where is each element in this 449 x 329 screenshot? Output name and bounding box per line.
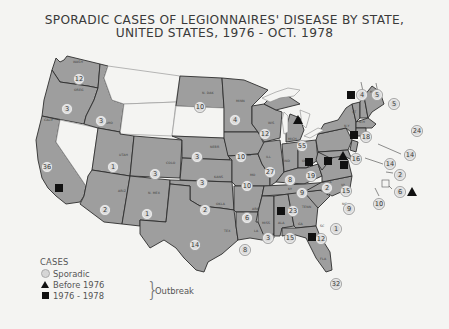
marker-ind[interactable]: 8 bbox=[284, 174, 295, 185]
outbreak-1976-1978-tenn[interactable] bbox=[277, 207, 285, 215]
label-tenn: TENN bbox=[301, 205, 312, 209]
label-ala: ALA bbox=[278, 221, 285, 225]
marker-fla[interactable]: 32 bbox=[330, 278, 341, 289]
marker-ga[interactable]: 12 bbox=[315, 233, 326, 244]
marker-wash[interactable]: 12 bbox=[73, 73, 84, 84]
marker-okla[interactable]: 2 bbox=[199, 204, 210, 215]
marker-tex[interactable]: 14 bbox=[189, 239, 200, 250]
marker-nmex[interactable]: 1 bbox=[141, 208, 152, 219]
svg-text:23: 23 bbox=[289, 207, 297, 215]
svg-text:3: 3 bbox=[200, 179, 204, 187]
triangle-icon bbox=[40, 280, 50, 290]
outbreak-before-1976-dc[interactable] bbox=[407, 187, 417, 196]
label-sc: SC bbox=[320, 224, 325, 228]
svg-text:2: 2 bbox=[103, 206, 107, 214]
outbreak-1976-1978-ind[interactable] bbox=[305, 158, 313, 166]
svg-text:14: 14 bbox=[406, 151, 414, 159]
legend-header: CASES bbox=[40, 257, 104, 267]
marker-idaho[interactable]: 3 bbox=[95, 115, 106, 126]
marker-ala[interactable]: 15 bbox=[284, 232, 295, 243]
outbreak-1976-1978-ohio[interactable] bbox=[324, 157, 332, 165]
svg-text:55: 55 bbox=[298, 142, 306, 150]
marker-wis[interactable]: 12 bbox=[259, 128, 270, 139]
state-mont bbox=[104, 66, 180, 104]
marker-ndak[interactable]: 10 bbox=[194, 101, 205, 112]
marker-mass[interactable]: 24 bbox=[411, 125, 422, 136]
leader-dc bbox=[389, 186, 392, 189]
svg-text:4: 4 bbox=[233, 116, 237, 124]
label-wash: WASH bbox=[73, 60, 83, 64]
outbreak-1976-1978-ny[interactable] bbox=[350, 131, 358, 139]
square-icon bbox=[40, 291, 50, 301]
state-nj[interactable] bbox=[350, 140, 358, 152]
marker-me[interactable]: 5 bbox=[388, 98, 399, 109]
label-ndak: N. DAK bbox=[202, 91, 214, 95]
svg-text:10: 10 bbox=[243, 182, 251, 190]
svg-text:12: 12 bbox=[317, 235, 325, 243]
marker-kans[interactable]: 3 bbox=[196, 177, 207, 188]
svg-text:8: 8 bbox=[243, 246, 247, 254]
outbreak-1976-1978-ga[interactable] bbox=[308, 233, 316, 241]
marker-ill[interactable]: 27 bbox=[264, 166, 275, 177]
label-okla: OKLA bbox=[216, 202, 226, 206]
marker-md[interactable]: 10 bbox=[373, 198, 384, 209]
marker-ky[interactable]: 9 bbox=[296, 187, 307, 198]
marker-utah[interactable]: 1 bbox=[107, 161, 118, 172]
marker-ny[interactable]: 18 bbox=[360, 131, 371, 142]
marker-sc[interactable]: 1 bbox=[330, 223, 341, 234]
lake-michigan bbox=[282, 112, 288, 134]
leader-md bbox=[375, 188, 379, 196]
marker-oreg[interactable]: 3 bbox=[61, 103, 72, 114]
legend-before-1976-label: Before 1976 bbox=[53, 280, 104, 290]
marker-la[interactable]: 8 bbox=[239, 244, 250, 255]
marker-nebr[interactable]: 3 bbox=[191, 151, 202, 162]
outbreak-1976-1978-calif[interactable] bbox=[55, 184, 63, 192]
marker-wva[interactable]: 2 bbox=[321, 182, 332, 193]
svg-text:9: 9 bbox=[300, 189, 304, 197]
svg-text:24: 24 bbox=[413, 127, 421, 135]
marker-dc[interactable]: 6 bbox=[394, 186, 405, 197]
marker-conn[interactable]: 14 bbox=[404, 149, 415, 160]
marker-ark[interactable]: 6 bbox=[241, 212, 252, 223]
svg-text:15: 15 bbox=[286, 234, 294, 242]
marker-nc[interactable]: 9 bbox=[343, 203, 354, 214]
label-ariz: ARIZ bbox=[118, 189, 127, 193]
svg-text:10: 10 bbox=[237, 153, 245, 161]
marker-colo[interactable]: 3 bbox=[149, 168, 160, 179]
marker-nj[interactable]: 14 bbox=[384, 158, 395, 169]
label-nmex: N. MEX bbox=[148, 191, 161, 195]
marker-del[interactable]: 2 bbox=[394, 169, 405, 180]
label-nh: N.H bbox=[359, 120, 366, 124]
svg-text:14: 14 bbox=[191, 241, 199, 249]
svg-text:32: 32 bbox=[332, 280, 340, 288]
marker-vt[interactable]: 4 bbox=[356, 89, 367, 100]
label-ind: IND bbox=[284, 159, 291, 163]
state-ind[interactable] bbox=[282, 142, 298, 172]
marker-mo[interactable]: 10 bbox=[241, 180, 252, 191]
outbreak-1976-1978-pa[interactable] bbox=[340, 161, 348, 169]
marker-pa[interactable]: 16 bbox=[350, 153, 361, 164]
marker-mich[interactable]: 55 bbox=[296, 140, 307, 151]
label-ill: ILL bbox=[266, 155, 271, 159]
marker-calif[interactable]: 36 bbox=[41, 161, 52, 172]
marker-iowa[interactable]: 10 bbox=[235, 151, 246, 162]
legend-outbreak-label: Outbreak bbox=[155, 286, 194, 296]
leader-conn bbox=[378, 144, 401, 154]
marker-ariz[interactable]: 2 bbox=[99, 204, 110, 215]
marker-minn[interactable]: 4 bbox=[229, 114, 240, 125]
label-miss: MISS bbox=[262, 221, 270, 225]
svg-text:10: 10 bbox=[375, 200, 383, 208]
outbreak-1976-1978-vt[interactable] bbox=[347, 91, 355, 99]
marker-tenn[interactable]: 23 bbox=[287, 205, 298, 216]
svg-text:1: 1 bbox=[334, 225, 338, 233]
svg-text:3: 3 bbox=[266, 234, 270, 242]
marker-va[interactable]: 15 bbox=[340, 185, 351, 196]
marker-ohio[interactable]: 19 bbox=[305, 170, 316, 181]
dc-inset-box bbox=[382, 180, 389, 187]
leader-del bbox=[386, 172, 393, 173]
marker-nh[interactable]: 5 bbox=[371, 89, 382, 100]
svg-text:3: 3 bbox=[153, 170, 157, 178]
label-oreg: OREG bbox=[74, 88, 84, 92]
marker-miss[interactable]: 3 bbox=[262, 232, 273, 243]
state-kans[interactable] bbox=[180, 158, 232, 182]
